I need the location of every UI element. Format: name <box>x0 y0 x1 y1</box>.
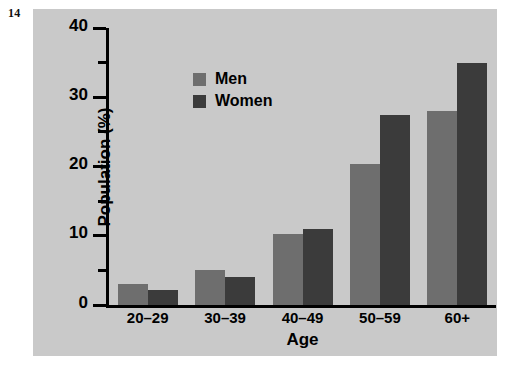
bar-groups <box>109 28 496 305</box>
y-tick-label: 10 <box>69 224 88 242</box>
bar-men <box>350 164 380 305</box>
plot-area: 010203040 Population (%) 20–2930–3940–49… <box>106 28 496 305</box>
bar-men <box>273 234 303 305</box>
legend-label: Men <box>215 70 247 88</box>
x-axis-label: 50–59 <box>341 309 418 326</box>
x-axis-label: 20–29 <box>109 309 186 326</box>
y-tick-label: 30 <box>69 86 88 104</box>
y-tick-major: 30 <box>93 96 106 99</box>
legend-item-women: Women <box>193 90 272 112</box>
y-tick-label: 0 <box>79 294 88 312</box>
x-axis-title: Age <box>109 330 496 350</box>
y-tick-minor <box>98 269 106 272</box>
y-tick-major: 0 <box>93 304 106 307</box>
legend-item-men: Men <box>193 68 272 90</box>
bar-group <box>109 28 186 305</box>
y-tick-minor <box>98 61 106 64</box>
bar-women <box>303 229 333 305</box>
bar-women <box>457 63 487 305</box>
legend-label: Women <box>215 92 272 110</box>
bar-women <box>148 290 178 305</box>
bar-group <box>264 28 341 305</box>
legend: MenWomen <box>193 68 272 112</box>
bar-group <box>341 28 418 305</box>
bar-men <box>118 284 148 305</box>
x-axis-label: 60+ <box>419 309 496 326</box>
bar-women <box>380 115 410 305</box>
bar-men <box>195 270 225 305</box>
bar-group <box>419 28 496 305</box>
x-axis-line <box>106 305 496 308</box>
x-axis-labels: 20–2930–3940–4950–5960+ <box>109 309 496 326</box>
y-tick-label: 40 <box>69 17 88 35</box>
figure-number: 14 <box>8 6 20 21</box>
legend-swatch-icon <box>193 95 206 108</box>
y-tick-major: 40 <box>93 27 106 30</box>
x-axis-label: 30–39 <box>186 309 263 326</box>
y-tick-label: 20 <box>69 155 88 173</box>
x-axis-label: 40–49 <box>264 309 341 326</box>
y-tick-major: 10 <box>93 234 106 237</box>
bar-women <box>225 277 255 305</box>
bar-men <box>427 111 457 305</box>
chart-panel: 010203040 Population (%) 20–2930–3940–49… <box>33 9 497 356</box>
legend-swatch-icon <box>193 73 206 86</box>
